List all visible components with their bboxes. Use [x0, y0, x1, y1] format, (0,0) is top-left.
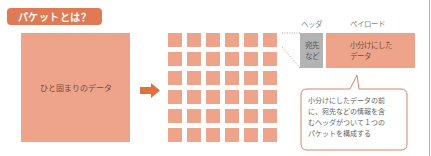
packet-cell	[206, 109, 220, 123]
payload-label: ペイロード	[350, 18, 385, 29]
header-box-line: など	[305, 51, 319, 62]
payload-box-line: 小分けにした	[350, 40, 392, 51]
header-label: ヘッダ	[301, 18, 322, 29]
packet-cell	[263, 71, 277, 85]
packet-cell	[263, 90, 277, 104]
packet-cell	[187, 109, 201, 123]
packet-cell	[244, 52, 258, 66]
callout-line: に、宛先などの情報を含	[308, 107, 404, 118]
packet-cell	[187, 52, 201, 66]
packet-cell	[263, 109, 277, 123]
packet-cell	[225, 90, 239, 104]
packet-cell	[187, 71, 201, 85]
section-title: パケットとは？	[7, 8, 102, 25]
packet-cell	[244, 90, 258, 104]
packet-cell	[225, 71, 239, 85]
callout-text: 小分けにしたデータの前 に、宛先などの情報を含 むヘッダがついて１つの パケット…	[308, 96, 404, 140]
data-block: ひと固まりのデータ	[21, 33, 130, 142]
guide-line-bottom	[282, 47, 300, 68]
packet-cell	[187, 90, 201, 104]
packet-cell	[168, 128, 182, 142]
packet-cell	[244, 71, 258, 85]
page-edge-line	[429, 0, 430, 156]
packet-cell	[206, 33, 220, 47]
packet-header-box: 宛先 など	[300, 33, 323, 68]
packet-cell	[168, 52, 182, 66]
packet-cell	[206, 71, 220, 85]
right-arrow-icon	[140, 83, 160, 98]
packet-cell	[225, 109, 239, 123]
packet-cell	[206, 52, 220, 66]
packet-cell	[206, 90, 220, 104]
packet-cell	[244, 128, 258, 142]
packet-cell	[168, 33, 182, 47]
packet-cell	[225, 33, 239, 47]
packet-cell	[187, 33, 201, 47]
packet-cell	[225, 52, 239, 66]
packet-cell	[244, 109, 258, 123]
packet-cell	[263, 52, 277, 66]
data-block-label: ひと固まりのデータ	[40, 82, 112, 93]
packet-cell	[168, 109, 182, 123]
packet-cell	[244, 33, 258, 47]
packet-cell	[168, 71, 182, 85]
packet-cell	[206, 128, 220, 142]
packet-cell	[168, 90, 182, 104]
packet-cell	[225, 128, 239, 142]
packet-payload-box: 小分けにした データ	[326, 33, 415, 68]
packet-cell	[263, 33, 277, 47]
header-box-line: 宛先	[305, 40, 319, 51]
callout-line: 小分けにしたデータの前	[308, 96, 404, 107]
callout-line: むヘッダがついて１つの	[308, 118, 404, 129]
packet-grid	[168, 33, 277, 142]
packet-cell	[263, 128, 277, 142]
callout-line: パケットを構成する	[308, 129, 404, 140]
payload-box-line: データ	[350, 51, 392, 62]
packet-cell	[187, 128, 201, 142]
